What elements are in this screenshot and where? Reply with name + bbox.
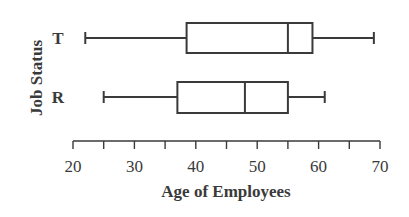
x-tick-label: 20: [65, 157, 82, 176]
x-tick-label: 70: [372, 157, 389, 176]
x-tick-label: 30: [126, 157, 143, 176]
x-axis: 203040506070: [65, 141, 389, 176]
category-label-t: T: [52, 29, 64, 48]
category-label-r: R: [52, 88, 65, 107]
x-tick-label: 60: [310, 157, 327, 176]
x-tick-label: 40: [187, 157, 204, 176]
box-t: [85, 23, 374, 53]
x-tick-label: 50: [249, 157, 266, 176]
x-axis-title: Age of Employees: [161, 182, 291, 201]
boxes: [85, 23, 374, 113]
box-r: [104, 82, 325, 113]
category-labels: TR: [52, 29, 65, 107]
y-axis-title: Job Status: [27, 40, 46, 116]
box-plot-chart: Job Status TR 203040506070 Age of Employ…: [0, 0, 409, 217]
